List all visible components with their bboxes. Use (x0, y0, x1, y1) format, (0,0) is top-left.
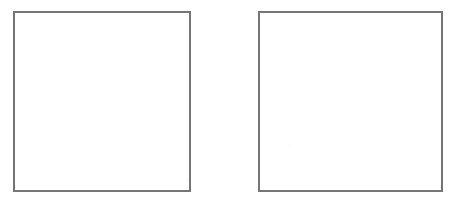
right-box-interior (260, 13, 441, 190)
right-box (258, 11, 443, 192)
left-box (13, 11, 191, 192)
left-box-interior (15, 13, 189, 190)
scanned-page (0, 0, 458, 205)
